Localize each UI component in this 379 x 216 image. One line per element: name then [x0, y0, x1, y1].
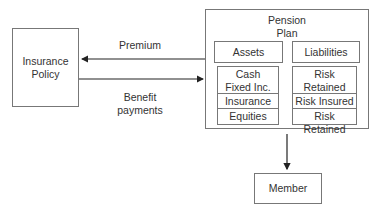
asset-divider: [218, 108, 278, 109]
benefit-label-line2: payments: [105, 104, 175, 117]
insurance-policy-node: Insurance Policy: [12, 28, 79, 107]
liability-risk-retained-2: Risk Retained: [293, 110, 356, 136]
liability-divider: [293, 93, 356, 94]
insurance-policy-label: Insurance Policy: [13, 55, 78, 81]
pension-plan-label: Pension Plan: [206, 14, 368, 40]
asset-divider: [218, 93, 278, 94]
asset-equities: Equities: [218, 110, 278, 123]
insurance-policy-line2: Policy: [13, 68, 78, 81]
insurance-policy-line1: Insurance: [13, 55, 78, 68]
asset-insurance: Insurance: [218, 95, 278, 108]
member-node: Member: [254, 173, 322, 204]
assets-header: Assets: [214, 41, 283, 63]
liability-risk-insured: Risk Insured: [293, 95, 356, 108]
assets-stack: Cash Fixed Inc. Insurance Equities: [217, 66, 279, 125]
pension-plan-line1: Pension: [206, 14, 368, 27]
liability-divider: [293, 108, 356, 109]
benefit-payments-label: Benefit payments: [105, 91, 175, 117]
member-label: Member: [255, 182, 321, 195]
asset-cash-label: Cash: [218, 68, 278, 81]
premium-label: Premium: [110, 39, 170, 52]
liability-risk-retained-1: Risk Retained: [293, 68, 356, 94]
asset-cash-fixed: Cash Fixed Inc.: [218, 68, 278, 94]
liabilities-header: Liabilities: [292, 41, 360, 63]
liabilities-stack: Risk Retained Risk Insured Risk Retained: [292, 66, 357, 125]
assets-header-label: Assets: [215, 46, 282, 59]
pension-plan-line2: Plan: [206, 27, 368, 40]
liabilities-header-label: Liabilities: [293, 46, 359, 59]
benefit-label-line1: Benefit: [105, 91, 175, 104]
